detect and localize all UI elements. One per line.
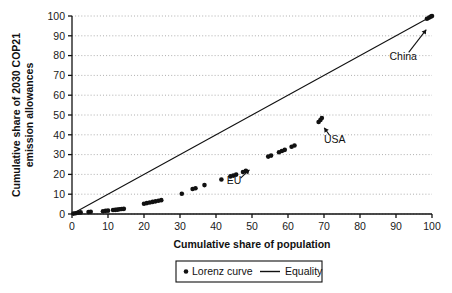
x-tick-label-60: 60 bbox=[282, 220, 294, 232]
y-tick-label-90: 90 bbox=[53, 30, 65, 42]
data-point bbox=[219, 177, 224, 182]
y-tick-label-40: 40 bbox=[53, 129, 65, 141]
legend-marker-dot bbox=[184, 269, 189, 274]
data-point bbox=[282, 148, 287, 153]
x-tick-label-0: 0 bbox=[69, 220, 75, 232]
annotation-eu: EU bbox=[227, 170, 250, 186]
y-axis-title: Cumulative share of 2030 COP21emission a… bbox=[10, 33, 35, 197]
legend-label-lorenz-curve: Lorenz curve bbox=[192, 265, 253, 277]
data-point bbox=[320, 116, 325, 121]
x-axis-title: Cumulative share of population bbox=[174, 238, 331, 250]
y-axis-title-line2: emission allowances bbox=[23, 63, 35, 168]
data-point bbox=[122, 207, 127, 212]
data-point bbox=[78, 210, 83, 215]
annotation-label-china: China bbox=[389, 50, 417, 62]
annotation-label-usa: USA bbox=[324, 133, 346, 145]
x-tick-label-100: 100 bbox=[423, 220, 441, 232]
x-tick-label-40: 40 bbox=[210, 220, 222, 232]
annotation-label-eu: EU bbox=[227, 174, 242, 186]
annotation-usa: USA bbox=[324, 128, 346, 145]
axis-titles: Cumulative share of populationCumulative… bbox=[10, 33, 330, 250]
data-point bbox=[202, 183, 207, 188]
chart-canvas: 0102030405060708090100010203040506070809… bbox=[0, 0, 452, 293]
data-point bbox=[106, 208, 111, 213]
data-point bbox=[193, 186, 198, 191]
x-tick-label-20: 20 bbox=[138, 220, 150, 232]
y-tick-label-60: 60 bbox=[53, 89, 65, 101]
data-point bbox=[88, 210, 93, 215]
legend-label-equality: Equality bbox=[285, 265, 323, 277]
data-point bbox=[159, 198, 164, 203]
y-tick-label-100: 100 bbox=[47, 10, 65, 22]
annotation-arrow-line-china bbox=[409, 30, 427, 53]
y-tick-label-10: 10 bbox=[53, 188, 65, 200]
data-point bbox=[180, 192, 185, 197]
equality-line bbox=[72, 16, 432, 214]
annotation-china: China bbox=[389, 30, 426, 62]
y-axis-title-line1: Cumulative share of 2030 COP21 bbox=[10, 33, 22, 197]
x-tick-label-10: 10 bbox=[102, 220, 114, 232]
legend: Lorenz curveEquality bbox=[176, 261, 323, 282]
annotations: EUUSAChina bbox=[227, 30, 427, 187]
x-tick-label-90: 90 bbox=[390, 220, 402, 232]
x-tick-label-70: 70 bbox=[318, 220, 330, 232]
y-tick-label-50: 50 bbox=[53, 109, 65, 121]
equality-line bbox=[72, 16, 432, 214]
annotation-arrowhead-china bbox=[422, 30, 427, 35]
y-tick-label-20: 20 bbox=[53, 168, 65, 180]
x-tick-label-80: 80 bbox=[354, 220, 366, 232]
y-tick-label-30: 30 bbox=[53, 148, 65, 160]
y-tick-label-80: 80 bbox=[53, 49, 65, 61]
data-point bbox=[292, 143, 297, 148]
y-tick-label-0: 0 bbox=[59, 208, 65, 220]
x-tick-label-30: 30 bbox=[174, 220, 186, 232]
data-point bbox=[430, 14, 435, 19]
data-point bbox=[269, 153, 274, 158]
lorenz-curve-chart: 0102030405060708090100010203040506070809… bbox=[0, 0, 452, 293]
x-tick-label-50: 50 bbox=[246, 220, 258, 232]
y-tick-label-70: 70 bbox=[53, 69, 65, 81]
